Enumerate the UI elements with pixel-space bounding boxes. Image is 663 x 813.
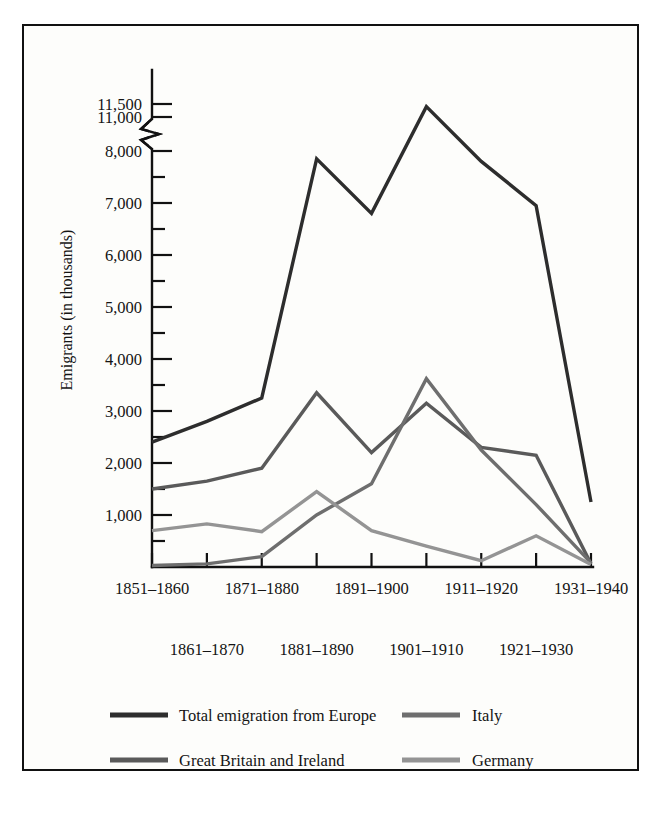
y-tick-label: 3,000 (105, 402, 142, 421)
x-tick-label: 1851–1860 (115, 579, 189, 598)
y-tick-label: 4,000 (105, 350, 142, 369)
x-tick-labels-top-row: 1851–18601871–18801891–19001911–19201931… (115, 579, 628, 598)
legend-label-total-emigration-from-europe: Total emigration from Europe (179, 706, 376, 725)
x-tick-labels-bottom-row: 1861–18701881–18901901–19101921–1930 (170, 640, 574, 659)
legend-label-germany: Germany (472, 751, 534, 769)
x-tick-label: 1861–1870 (170, 640, 244, 659)
y-tick-label: 11,500 (97, 95, 142, 114)
x-tick-label: 1921–1930 (499, 640, 573, 659)
y-tick-labels: 1,0002,0003,0004,0005,0006,0007,0008,000… (97, 95, 142, 525)
plot-stage: 1,0002,0003,0004,0005,0006,0007,0008,000… (24, 26, 637, 769)
x-tick-label: 1871–1880 (225, 579, 299, 598)
legend-label-great-britain-and-ireland: Great Britain and Ireland (179, 751, 345, 769)
y-tick-label: 8,000 (105, 142, 142, 161)
axis-break-mask (149, 120, 155, 148)
chart-legend: Total emigration from EuropeItalyGreat B… (110, 706, 534, 769)
axis-break-icon (141, 119, 159, 149)
x-tick-label: 1931–1940 (554, 579, 628, 598)
y-tick-label: 1,000 (105, 506, 142, 525)
y-tick-label: 6,000 (105, 246, 142, 265)
x-tick-label: 1881–1890 (280, 640, 354, 659)
x-tick-label: 1901–1910 (389, 640, 463, 659)
y-axis-title: Emigrants (in thousands) (58, 230, 76, 391)
data-series-group (152, 107, 591, 566)
y-tick-label: 2,000 (105, 454, 142, 473)
x-tick-label: 1911–1920 (444, 579, 518, 598)
emigration-line-chart: 1,0002,0003,0004,0005,0006,0007,0008,000… (24, 26, 637, 769)
x-axis (152, 553, 593, 567)
y-tick-label: 5,000 (105, 298, 142, 317)
series-line-total-emigration-from-europe (152, 107, 591, 502)
x-tick-label: 1891–1900 (334, 579, 408, 598)
figure-frame: 1,0002,0003,0004,0005,0006,0007,0008,000… (22, 24, 639, 771)
y-tick-label: 7,000 (105, 194, 142, 213)
series-line-italy (152, 379, 591, 566)
legend-label-italy: Italy (472, 706, 503, 725)
